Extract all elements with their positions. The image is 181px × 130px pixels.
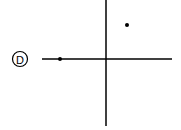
points-group (58, 23, 129, 61)
point-in-first-quadrant (125, 23, 129, 27)
option-letter: D (16, 54, 24, 66)
coordinate-diagram: D (0, 0, 181, 130)
option-d-label[interactable]: D (13, 52, 28, 67)
point-on-negative-x-axis (58, 57, 62, 61)
